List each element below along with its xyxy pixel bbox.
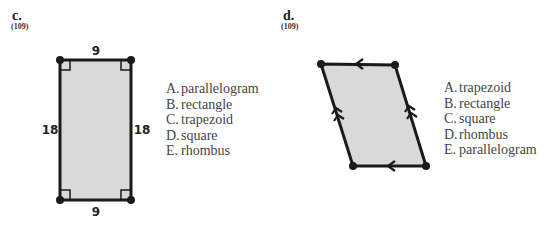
problem-d-options: A.trapezoid B.rectangle C.square D.rhomb… <box>444 80 537 158</box>
option-b[interactable]: B.rectangle <box>166 97 259 113</box>
bottom-dimension: 9 <box>92 205 100 219</box>
option-b[interactable]: B.rectangle <box>444 96 537 112</box>
rectangle-figure: 9 9 18 18 <box>42 44 151 219</box>
option-c[interactable]: C.square <box>444 111 537 127</box>
option-e[interactable]: E.rhombus <box>166 143 259 159</box>
option-a[interactable]: A.trapezoid <box>444 80 537 96</box>
option-a[interactable]: A.parallelogram <box>166 81 259 97</box>
option-c[interactable]: C.trapezoid <box>166 112 259 128</box>
left-dimension: 18 <box>42 123 59 137</box>
top-dimension: 9 <box>92 44 100 58</box>
right-dimension: 18 <box>134 123 151 137</box>
parallelogram-figure <box>317 59 430 171</box>
option-e[interactable]: E.parallelogram <box>444 142 537 158</box>
problem-c-options: A.parallelogram B.rectangle C.trapezoid … <box>166 81 259 159</box>
option-d[interactable]: D.square <box>166 128 259 144</box>
option-d[interactable]: D.rhombus <box>444 127 537 143</box>
